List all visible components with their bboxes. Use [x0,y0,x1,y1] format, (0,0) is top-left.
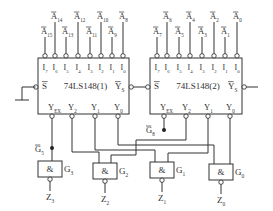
output-bubble [184,114,188,118]
svg-text:G8: G8 [146,125,155,137]
svg-text:A10: A10 [97,11,109,23]
svg-text:G0: G0 [235,167,245,179]
input-bubble [165,54,169,58]
input-bubble [155,54,159,58]
signal-a7: A7 [153,26,162,38]
inversion-bubble [146,85,150,89]
input-bubble [177,54,181,58]
svg-text:Z1: Z1 [158,193,167,205]
gate-output-bubble [219,180,223,184]
gate-label: G2 [119,166,129,178]
input-bubble [200,54,204,58]
input-bubble [121,54,125,58]
output-z3: Z3 [46,192,55,204]
svg-text:A3: A3 [198,26,207,38]
ground-wire [22,87,36,100]
and-symbol: & [217,167,224,177]
svg-text:A1: A1 [221,26,230,38]
input-bubble [223,54,227,58]
enable-label: S [42,81,48,91]
junction-dot [50,146,54,150]
svg-text:G2: G2 [119,166,129,178]
signal-a6: A6 [163,11,172,23]
svg-text:A8: A8 [119,11,128,23]
svg-text:A11: A11 [86,26,97,38]
gate-output-bubble [160,178,164,182]
chip-label: 74LS148(1) [64,81,108,91]
svg-text:A6: A6 [163,11,172,23]
and-gate-g1: & [150,162,174,178]
signal-a5: A5 [175,26,184,38]
input-bubble [110,54,114,58]
output-bubble [162,114,166,118]
svg-text:A13: A13 [62,26,74,38]
output-z2: Z2 [101,194,110,206]
svg-text:S: S [154,81,159,91]
input-bubble [99,54,103,58]
svg-text:A15: A15 [41,26,53,38]
svg-text:A7: A7 [153,26,162,38]
svg-text:A5: A5 [175,26,184,38]
circuit-diagram: 74LS148(1)I7A15I6A14I5A13I4A12I3A11I2A10… [0,0,273,211]
svg-text:G3: G3 [64,164,74,176]
enable-label: S [154,81,160,91]
svg-text:G5: G5 [35,144,44,156]
signal-a9: A9 [108,26,117,38]
gate-output-bubble [48,177,52,181]
signal-a14: A14 [51,11,63,23]
output-bubble [50,114,54,118]
svg-text:S: S [42,81,47,91]
input-bubble [212,54,216,58]
gate-label: G0 [235,167,245,179]
signal-a4: A4 [186,11,195,23]
output-bubble [116,114,120,118]
output-bubble [206,114,210,118]
signal-a12: A12 [74,11,86,23]
input-bubble [43,54,47,58]
svg-text:A12: A12 [74,11,86,23]
output-z1: Z1 [158,193,167,205]
y0-1-to-g0 [118,118,214,164]
and-symbol: & [158,165,165,175]
svg-text:A2: A2 [210,11,219,23]
and-gate-g3: & [38,161,62,177]
signal-a2: A2 [210,11,219,23]
svg-text:A9: A9 [108,26,117,38]
svg-text:Z0: Z0 [217,195,226,207]
and-symbol: & [46,164,53,174]
signal-a11: A11 [86,26,97,38]
signal-a15: A15 [41,26,53,38]
and-gate-g2: & [93,163,117,179]
signal-a10: A10 [97,11,109,23]
input-bubble [53,54,57,58]
output-bubble [93,114,97,118]
inversion-bubble [129,85,133,89]
signal-a1: A1 [221,26,230,38]
and-symbol: & [101,166,108,176]
gate-label: G3 [64,164,74,176]
signal-a13: A13 [62,26,74,38]
svg-text:A0: A0 [233,11,242,23]
inversion-bubble [242,85,246,89]
node-g8: G8 [146,125,155,137]
signal-a3: A3 [198,26,207,38]
input-bubble [188,54,192,58]
input-bubble [76,54,80,58]
output-z0: Z0 [217,195,226,207]
signal-a8: A8 [119,11,128,23]
input-bubble [64,54,68,58]
input-bubble [235,54,239,58]
svg-text:Z3: Z3 [46,192,55,204]
signal-a0: A0 [233,11,242,23]
output-bubble [70,114,74,118]
junction-dot [162,128,166,132]
output-bubble [228,114,232,118]
svg-text:A4: A4 [186,11,195,23]
chip-label: 74LS148(2) [176,81,220,91]
gate-output-bubble [103,179,107,183]
svg-text:Z2: Z2 [101,194,110,206]
svg-text:A14: A14 [51,11,63,23]
node-g5: G5 [35,144,44,156]
gate-label: G1 [176,165,186,177]
svg-text:G1: G1 [176,165,186,177]
